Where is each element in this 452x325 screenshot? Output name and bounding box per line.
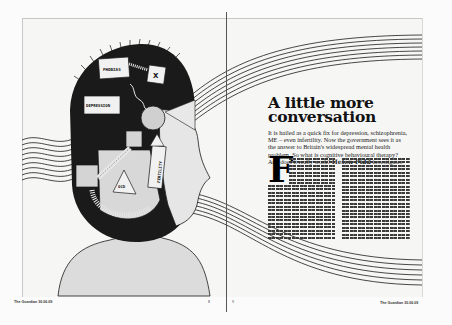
page-marker-right: 9 [232,300,234,304]
footer-right-text: The Guardian 30.06.09 [380,301,418,305]
footer-right: The Guardian 30.06.09 [380,301,418,305]
body-column-2 [342,158,410,241]
newspaper-spread: PHOBIAS X DEPRESSION OCD FERTILITY A lit… [0,0,452,325]
body-column-1-top [289,158,335,186]
label-ocd: OCD [118,184,126,189]
footer-left-text: The Guardian 30.06.09 [14,300,52,304]
label-x: X [153,72,159,80]
headline: A little more conversation [268,96,438,124]
headline-line-2: conversation [268,110,438,124]
eye-circle [141,106,165,130]
card-blank-left [76,165,98,187]
label-depression: DEPRESSION [86,103,111,108]
footer-left: The Guardian 30.06.09 [14,300,52,304]
page-gutter [226,12,227,312]
body-column-1 [268,185,335,240]
card-blank-top [126,131,142,147]
page-marker-left: 8 [208,300,210,304]
label-phobias: PHOBIAS [103,67,121,72]
